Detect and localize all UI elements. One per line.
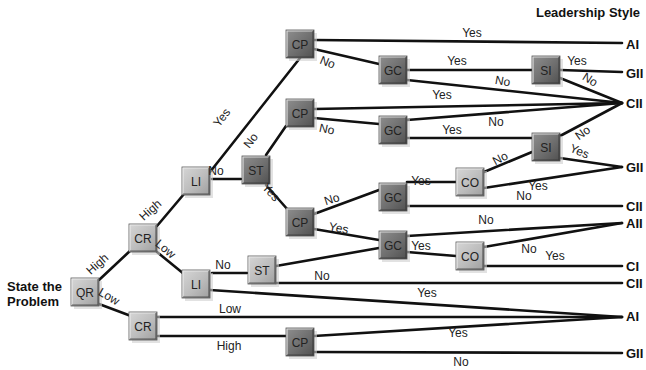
- edge-label: Yes: [417, 286, 437, 300]
- node-label: GC: [384, 124, 402, 138]
- edge-line: [157, 194, 184, 226]
- edge-label: Low: [219, 302, 241, 316]
- node-label: CP: [292, 336, 309, 350]
- nodes-layer: QRCRCRLILISTSTCPCPCPCPGCGCGCGCSISICOCO: [71, 30, 563, 359]
- node-label: ST: [254, 264, 270, 278]
- node-label: GC: [384, 64, 402, 78]
- outcome-label: CI: [626, 259, 639, 274]
- node-label: LI: [191, 278, 201, 292]
- edge-label: Yes: [448, 326, 468, 340]
- start-label-line1: State the: [7, 279, 62, 294]
- node-gc2: GC: [379, 116, 410, 147]
- edge-label: No: [314, 269, 330, 283]
- edge-label: No: [490, 149, 510, 169]
- outcome-label: AII: [626, 216, 643, 231]
- edge-label: No: [478, 213, 494, 227]
- edge-label: High: [136, 197, 164, 224]
- outcome-label: CII: [626, 96, 643, 111]
- node-cp4: CP: [286, 328, 317, 359]
- outcome-label: GII: [626, 346, 643, 361]
- edge-line: [276, 248, 379, 266]
- edge-label: No: [241, 130, 262, 151]
- node-st2: ST: [248, 256, 279, 287]
- node-label: CR: [134, 320, 152, 334]
- node-co2: CO: [456, 242, 487, 273]
- edge-label: No: [494, 73, 512, 90]
- edge-label: No: [208, 164, 224, 178]
- edge-label: No: [521, 242, 537, 256]
- edge-label: No: [318, 53, 338, 72]
- outcome-label: AI: [626, 37, 639, 52]
- node-cp1: CP: [286, 30, 317, 61]
- node-label: ST: [248, 164, 264, 178]
- node-si1: SI: [532, 56, 563, 87]
- outcome-label: CII: [626, 276, 643, 291]
- node-label: GC: [384, 239, 402, 253]
- leadership-style-title: Leadership Style: [536, 5, 640, 20]
- edge-label: No: [516, 189, 532, 203]
- edge-label: Yes: [462, 26, 482, 40]
- edge-label: No: [215, 258, 231, 272]
- node-li2: LI: [182, 270, 213, 301]
- edge-line: [314, 352, 622, 353]
- decision-tree-diagram: QRCRCRLILISTSTCPCPCPCPGCGCGCGCSISICOCO H…: [0, 0, 646, 370]
- edge-label: Yes: [545, 249, 565, 263]
- edge-label: Yes: [411, 174, 431, 188]
- node-gc4: GC: [379, 231, 410, 262]
- node-cr2: CR: [129, 312, 160, 343]
- node-label: QR: [76, 286, 94, 300]
- node-label: CO: [461, 250, 479, 264]
- edge-label: Yes: [411, 239, 431, 253]
- outcomes-layer: AIGIICIIGIICIIAIICICIIAIGII: [626, 37, 643, 361]
- edge-label: Yes: [328, 219, 350, 236]
- node-label: CP: [292, 107, 309, 121]
- edge-label: No: [572, 122, 593, 142]
- node-cp2: CP: [286, 99, 317, 130]
- edge-label: Yes: [210, 106, 233, 130]
- start-label: State the Problem: [7, 279, 66, 309]
- start-label-line2: Problem: [7, 294, 59, 309]
- edge-label: No: [318, 121, 336, 138]
- node-gc1: GC: [379, 56, 410, 87]
- node-label: SI: [540, 141, 551, 155]
- edge-line: [484, 167, 622, 188]
- node-si2: SI: [532, 133, 563, 164]
- node-label: CO: [461, 176, 479, 190]
- node-label: SI: [540, 64, 551, 78]
- node-label: GC: [384, 191, 402, 205]
- edge-line: [210, 290, 622, 317]
- outcome-label: GII: [626, 160, 643, 175]
- node-cr1: CR: [129, 224, 160, 255]
- edge-line: [560, 158, 622, 167]
- outcome-label: AI: [626, 309, 639, 324]
- edge-label: No: [453, 355, 469, 369]
- node-label: CR: [134, 232, 152, 246]
- edge-label: High: [217, 339, 242, 353]
- edge-label: No: [488, 115, 504, 129]
- node-co1: CO: [456, 168, 487, 199]
- outcome-label: GII: [626, 66, 643, 81]
- edge-label: Yes: [567, 54, 587, 68]
- node-label: CP: [292, 216, 309, 230]
- edge-label: Yes: [447, 54, 467, 68]
- outcome-label: CII: [626, 199, 643, 214]
- edge-line: [266, 126, 286, 155]
- node-cp3: CP: [286, 208, 317, 239]
- node-label: CP: [292, 38, 309, 52]
- edge-line: [314, 40, 622, 43]
- node-gc3: GC: [379, 183, 410, 214]
- edge-line: [314, 317, 622, 336]
- edge-label: Yes: [432, 88, 452, 102]
- edge-label: Yes: [442, 123, 462, 137]
- node-label: LI: [191, 175, 201, 189]
